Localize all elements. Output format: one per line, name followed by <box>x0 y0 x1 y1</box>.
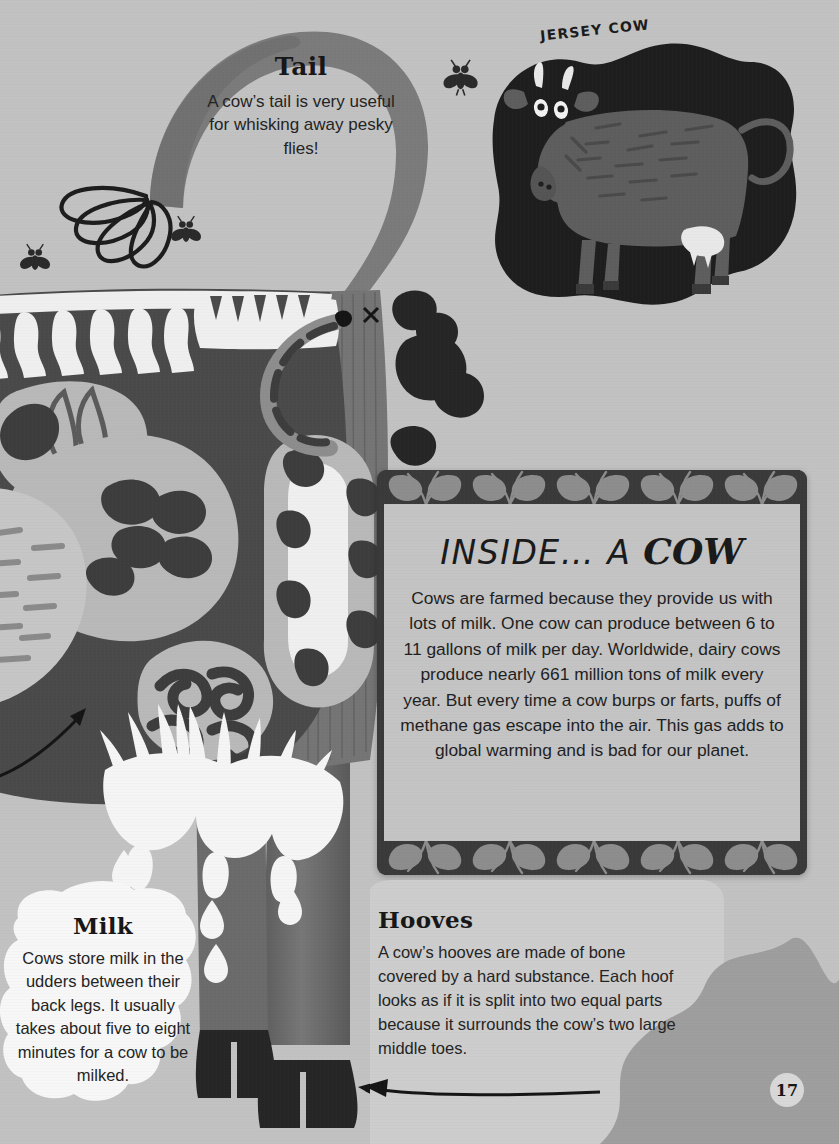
arrow-icon <box>364 1079 600 1097</box>
page-number: 17 <box>770 1073 804 1107</box>
book-page: JERSEY COW Tail A cow’s tail is very use… <box>0 0 839 1144</box>
hooves-arrow-layer <box>0 0 839 1144</box>
